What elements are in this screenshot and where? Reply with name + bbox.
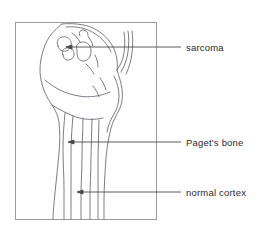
bone-outer-contour-left: [40, 24, 62, 219]
trabecular-mark-a: [100, 78, 106, 90]
annotation-label-pagets-bone: Paget's bone: [186, 138, 244, 148]
annotation-label-normal-cortex: normal cortex: [186, 188, 246, 198]
bone-lateral-process: [117, 32, 125, 70]
figure-root: sarcoma Paget's bone normal cortex: [0, 0, 261, 234]
bone-diagram-svg: [0, 0, 261, 234]
bone-medial-flare: [52, 105, 103, 119]
bone-head-dome-inner: [66, 27, 111, 52]
bone-lateral-process-edge: [126, 31, 133, 74]
bone-illustration: [40, 24, 133, 219]
arrow-head-normal-cortex-icon: [77, 190, 83, 194]
annotation-label-sarcoma: sarcoma: [186, 43, 224, 53]
sarcoma-lesion-outline-c: [76, 42, 91, 61]
bone-outer-contour-right: [104, 70, 122, 219]
cortex-line-normal: [90, 119, 92, 219]
cortex-line-central: [81, 118, 83, 219]
sarcoma-lesion-streak-c: [95, 55, 98, 67]
cortex-line-medial-outer: [63, 113, 65, 219]
cortex-line-medial-inner: [71, 116, 73, 219]
cortex-line-lateral: [98, 120, 99, 219]
trabecular-mark-b: [93, 86, 99, 97]
sarcoma-lesion-streak-d: [86, 64, 94, 74]
arrow-head-pagets-icon: [68, 140, 74, 144]
figure-frame: [16, 23, 157, 220]
sarcoma-lesion-outline-d: [79, 30, 88, 36]
bone-head-base: [45, 80, 110, 97]
